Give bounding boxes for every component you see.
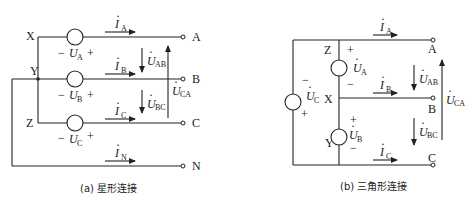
svg-text:C: C <box>386 152 391 161</box>
current-i-b: I · B <box>105 51 135 75</box>
terminal-b <box>181 77 185 81</box>
svg-text:A: A <box>386 27 392 36</box>
svg-text:−: − <box>347 77 354 91</box>
current-i-a: I · A <box>373 12 397 36</box>
svg-text:BC: BC <box>155 103 166 112</box>
svg-text:−: − <box>58 46 65 60</box>
svg-text:B: B <box>357 135 362 144</box>
svg-text:A: A <box>77 53 83 62</box>
current-i-a: I · A <box>105 9 135 33</box>
terminal-label-b: B <box>192 72 200 86</box>
svg-text:·: · <box>308 80 312 94</box>
svg-text:·: · <box>149 45 153 59</box>
terminal-label-b: B <box>428 102 436 116</box>
node-label-z: Z <box>26 116 33 130</box>
svg-text:·: · <box>355 52 359 66</box>
voltage-source-c <box>67 115 83 131</box>
svg-text:·: · <box>149 88 153 102</box>
svg-text:·: · <box>116 138 120 152</box>
voltage-u-bc: U · BC <box>142 88 166 113</box>
svg-text:·: · <box>448 84 452 98</box>
svg-text:·: · <box>381 12 385 26</box>
voltage-u-ab: U · AB <box>142 45 166 72</box>
svg-text:·: · <box>71 79 75 93</box>
voltage-u-ab: U · AB <box>414 63 438 90</box>
voltage-u-ca: U · CA <box>168 46 191 118</box>
svg-text:A: A <box>361 68 367 77</box>
node-label-x: X <box>324 92 333 106</box>
delta-connection-diagram: A B C Z X Y + U · A − + U · B − − U · <box>285 12 465 192</box>
voltage-source-c <box>285 94 301 110</box>
svg-text:+: + <box>87 46 94 60</box>
terminal-a <box>181 35 185 39</box>
svg-text:−: − <box>350 141 357 155</box>
svg-text:B: B <box>386 85 391 94</box>
voltage-source-a <box>331 60 347 76</box>
terminal-label-n: N <box>192 159 201 173</box>
svg-text:·: · <box>421 116 425 130</box>
caption-delta: (b) 三角形连接 <box>340 180 407 192</box>
svg-text:C: C <box>77 139 82 148</box>
voltage-source-a <box>67 29 83 45</box>
terminal-b <box>431 96 435 100</box>
voltage-source-b <box>331 129 347 145</box>
svg-text:CA: CA <box>454 99 465 108</box>
svg-text:C: C <box>121 111 126 120</box>
voltage-u-ca: U · CA <box>442 60 465 140</box>
svg-text:·: · <box>116 51 120 65</box>
terminal-n <box>181 164 185 168</box>
svg-text:CA: CA <box>180 90 191 99</box>
terminal-c <box>181 121 185 125</box>
node-label-y: Y <box>30 64 39 78</box>
svg-text:·: · <box>116 9 120 23</box>
current-i-c: I · C <box>373 137 397 161</box>
caption-star: (a) 星形连接 <box>80 182 137 194</box>
node-label-z: Z <box>324 43 331 57</box>
svg-text:+: + <box>87 129 94 143</box>
svg-text:C: C <box>314 96 319 105</box>
svg-text:+: + <box>87 88 94 102</box>
svg-text:·: · <box>71 123 75 137</box>
svg-text:+: + <box>347 43 354 57</box>
source-label-c: − U · C + <box>301 73 319 121</box>
terminal-label-c: C <box>428 151 436 165</box>
current-i-n: I · N <box>105 138 135 162</box>
source-label-a: + U · A − <box>347 43 367 91</box>
terminal-label-c: C <box>192 116 200 130</box>
svg-text:B: B <box>77 95 82 104</box>
svg-text:−: − <box>58 131 65 145</box>
terminal-label-a: A <box>192 30 201 44</box>
source-label-b: + U · B − <box>349 113 362 155</box>
svg-text:BC: BC <box>427 131 438 140</box>
terminal-label-a: A <box>428 42 437 56</box>
svg-text:·: · <box>116 96 120 110</box>
svg-text:·: · <box>381 70 385 84</box>
current-i-b: I · B <box>373 70 397 94</box>
svg-text:·: · <box>71 37 75 51</box>
svg-text:AB: AB <box>155 60 166 69</box>
circuit-diagrams: A B C N X Y Z − U · A + − U · B + − U · <box>0 0 469 199</box>
voltage-u-bc: U · BC <box>414 116 438 145</box>
svg-text:·: · <box>421 63 425 77</box>
svg-text:N: N <box>121 153 127 162</box>
svg-text:+: + <box>301 107 308 121</box>
svg-text:B: B <box>121 66 126 75</box>
node-label-x: X <box>26 29 35 43</box>
voltage-source-b <box>67 71 83 87</box>
svg-text:−: − <box>58 88 65 102</box>
svg-text:AB: AB <box>427 78 438 87</box>
svg-text:·: · <box>174 75 178 89</box>
svg-text:·: · <box>351 119 355 133</box>
svg-text:A: A <box>121 24 127 33</box>
star-connection-diagram: A B C N X Y Z − U · A + − U · B + − U · <box>12 9 201 194</box>
current-i-c: I · C <box>105 96 135 120</box>
svg-text:·: · <box>381 137 385 151</box>
